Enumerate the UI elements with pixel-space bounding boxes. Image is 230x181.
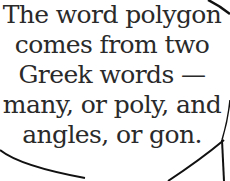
bubble-line-4: many, or poly, and — [0, 90, 224, 120]
speech-bubble-text: The word polygon comes from two Greek wo… — [0, 0, 224, 150]
bubble-line-1: The word polygon — [0, 0, 224, 30]
comic-panel: The word polygon comes from two Greek wo… — [0, 0, 230, 181]
bubble-line-5: angles, or gon. — [0, 120, 224, 150]
bubble-line-2: comes from two — [0, 30, 224, 60]
bubble-line-3: Greek words — — [0, 60, 224, 90]
